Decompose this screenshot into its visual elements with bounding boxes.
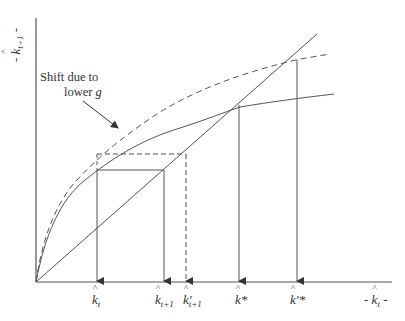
tick-label-k-t: kt: [92, 292, 100, 308]
annotation-arrow: [83, 101, 118, 128]
y-axis-label: - kt+1 -: [8, 28, 24, 62]
tick-label-k-t1: kt+1: [155, 292, 174, 308]
tick-label-k-star: k*: [235, 292, 247, 308]
shift-annotation: Shift due to lower g: [40, 70, 102, 100]
original-curve: [36, 94, 334, 282]
annotation-line-1: Shift due to: [40, 70, 102, 85]
tick-label-k-prime-t1: k′t+1: [183, 292, 202, 308]
x-axis-label: - kt -: [364, 292, 387, 308]
tick-label-k-prime-star: k′*: [290, 292, 305, 308]
solow-diagram: [0, 0, 405, 321]
annotation-line-2: lower g: [40, 85, 102, 100]
